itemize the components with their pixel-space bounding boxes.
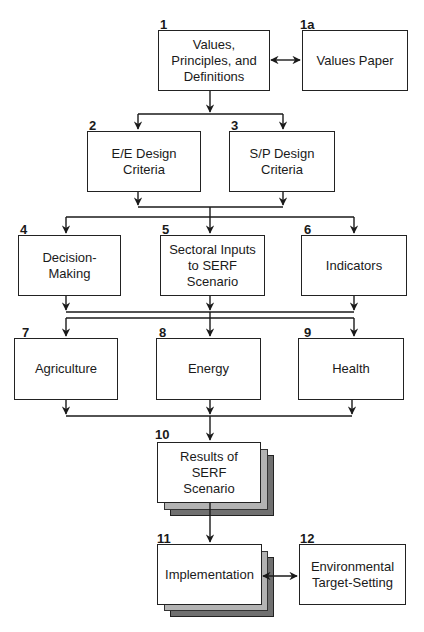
node-10-label: Results of SERF Scenario: [174, 449, 244, 497]
node-sp-design-criteria: S/P Design Criteria: [229, 131, 335, 192]
node-decision-making: Decision-Making: [18, 235, 121, 296]
node-sectoral-inputs: Sectoral Inputs to SERF Scenario: [160, 235, 265, 296]
node-1-label: Values, Principles, and Definitions: [163, 37, 265, 85]
connector-lines: [0, 0, 424, 632]
node-values-paper: Values Paper: [302, 30, 408, 91]
node-1a-label: Values Paper: [316, 53, 393, 69]
node-11-label: Implementation: [165, 567, 254, 583]
node-results-of-serf-scenario: Results of SERF Scenario: [157, 442, 261, 503]
node-ee-design-criteria: E/E Design Criteria: [87, 131, 201, 192]
node-9-label: Health: [332, 361, 370, 377]
node-agriculture: Agriculture: [14, 338, 118, 400]
node-5-label: Sectoral Inputs to SERF Scenario: [168, 242, 258, 290]
node-4-label: Decision-Making: [40, 250, 100, 282]
node-12-label: Environmental Target-Setting: [304, 559, 401, 591]
node-7-label: Agriculture: [35, 361, 97, 377]
node-implementation: Implementation: [157, 544, 262, 605]
node-10-number: 10: [155, 428, 169, 441]
node-2-label: E/E Design Criteria: [104, 146, 184, 178]
node-health: Health: [298, 338, 404, 400]
node-6-label: Indicators: [326, 258, 382, 274]
node-values-principles-definitions: Values, Principles, and Definitions: [158, 30, 270, 91]
node-8-label: Energy: [188, 361, 229, 377]
node-3-label: S/P Design Criteria: [242, 146, 322, 178]
node-energy: Energy: [156, 338, 261, 400]
node-indicators: Indicators: [301, 235, 407, 296]
node-environmental-target-setting: Environmental Target-Setting: [299, 544, 406, 605]
